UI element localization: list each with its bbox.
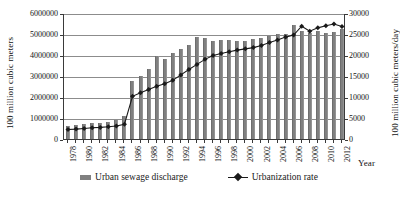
data-point-marker <box>235 48 240 53</box>
x-axis-tickmark <box>341 140 342 143</box>
x-axis-tickmark <box>107 140 108 143</box>
x-axis-tickmark <box>220 140 221 143</box>
y-axis-left-tickmark <box>60 35 63 36</box>
data-point-marker <box>74 127 79 132</box>
y-axis-right-tick-label: 30000 <box>349 10 389 18</box>
x-axis-tickmark <box>115 140 116 143</box>
data-point-marker <box>267 40 272 45</box>
x-axis-tickmark <box>140 140 141 143</box>
x-axis-tick-label: 1990 <box>167 146 175 162</box>
data-point-marker <box>114 123 119 128</box>
x-axis-tick-label: 2004 <box>280 146 288 162</box>
data-point-marker <box>162 81 167 86</box>
x-axis-tickmark <box>91 140 92 143</box>
x-axis-tickmark <box>317 140 318 143</box>
plot-area <box>63 14 345 140</box>
y-axis-left-tickmark <box>60 98 63 99</box>
x-axis-tickmark <box>204 140 205 143</box>
y-axis-right-tickmark <box>345 119 348 120</box>
y-axis-left-tickmark <box>60 77 63 78</box>
y-axis-right-tick-label: 0 <box>349 136 389 144</box>
x-axis-tick-label: 1996 <box>215 146 223 162</box>
chart-legend: Urban sewage discharge Urbanization rate <box>0 172 398 182</box>
data-point-marker <box>90 125 95 130</box>
legend-item-urbanization-rate: Urbanization rate <box>228 172 318 182</box>
y-axis-right-title: 100 million cubic meters/day <box>390 10 400 156</box>
x-axis-tickmark <box>131 140 132 143</box>
data-point-marker <box>251 45 256 50</box>
x-axis-tick-label: 1998 <box>231 146 239 162</box>
y-axis-left-tick-label: 2000000 <box>0 94 58 102</box>
data-point-marker <box>211 53 216 58</box>
legend-item-urban-sewage-discharge: Urban sewage discharge <box>80 172 188 182</box>
y-axis-left-tickmark <box>60 56 63 57</box>
y-axis-right-tick-label: 20000 <box>349 52 389 60</box>
data-point-marker <box>331 22 336 27</box>
x-axis-tick-label: 1986 <box>135 146 143 162</box>
y-axis-right-tick-label: 5000 <box>349 115 389 123</box>
x-axis-tickmark <box>285 140 286 143</box>
y-axis-left-tickmark <box>60 140 63 141</box>
x-axis-tick-label: 1984 <box>119 146 127 162</box>
y-axis-right-tickmark <box>345 56 348 57</box>
x-axis-tick-label: 2012 <box>344 146 352 162</box>
x-axis-tickmark <box>148 140 149 143</box>
data-point-marker <box>146 87 151 92</box>
x-axis-tickmark <box>172 140 173 143</box>
y-axis-left-tick-label: 0 <box>0 136 58 144</box>
x-axis-tickmark <box>164 140 165 143</box>
data-point-marker <box>82 126 87 131</box>
x-axis-tickmark <box>75 140 76 143</box>
y-axis-right-tickmark <box>345 98 348 99</box>
data-point-marker <box>315 25 320 30</box>
x-axis-tickmark <box>325 140 326 143</box>
legend-label: Urbanization rate <box>252 172 318 182</box>
x-axis-tickmark <box>212 140 213 143</box>
y-axis-right-tickmark <box>345 35 348 36</box>
y-axis-left-tickmark <box>60 14 63 15</box>
data-point-marker <box>307 29 312 34</box>
data-point-marker <box>243 46 248 51</box>
x-axis-tick-label: 2002 <box>264 146 272 162</box>
x-axis-tick-label: 2000 <box>247 146 255 162</box>
data-point-marker <box>194 62 199 67</box>
x-axis-tickmark <box>99 140 100 143</box>
y-axis-left-tick-label: 3000000 <box>0 73 58 81</box>
data-point-marker <box>154 84 159 89</box>
x-axis-tickmark <box>260 140 261 143</box>
y-axis-left-tick-label: 5000000 <box>0 31 58 39</box>
x-axis-tickmark <box>123 140 124 143</box>
y-axis-right-tick-label: 15000 <box>349 73 389 81</box>
data-point-marker <box>203 57 208 62</box>
data-point-marker <box>259 43 264 48</box>
x-axis-tickmark <box>83 140 84 143</box>
y-axis-right-tick-label: 10000 <box>349 94 389 102</box>
x-axis-tick-label: 1980 <box>86 146 94 162</box>
data-point-marker <box>323 23 328 28</box>
y-axis-left-tick-label: 1000000 <box>0 115 58 123</box>
x-axis-tickmark <box>301 140 302 143</box>
x-axis-tick-label: 1988 <box>151 146 159 162</box>
x-axis-tickmark <box>252 140 253 143</box>
line-path <box>68 24 342 129</box>
x-axis-tick-label: 1992 <box>183 146 191 162</box>
y-axis-right-tickmark <box>345 77 348 78</box>
x-axis-tick-label: 1982 <box>102 146 110 162</box>
x-axis-tickmark <box>236 140 237 143</box>
bar-swatch-icon <box>80 175 91 180</box>
x-axis-tick-label: 2008 <box>312 146 320 162</box>
y-axis-right-tick-label: 25000 <box>349 31 389 39</box>
data-point-marker <box>219 51 224 56</box>
x-axis-tickmark <box>156 140 157 143</box>
y-axis-left-tick-label: 4000000 <box>0 52 58 60</box>
x-axis-tickmark <box>188 140 189 143</box>
x-axis-tick-label: 1994 <box>199 146 207 162</box>
data-point-marker <box>98 125 103 130</box>
x-axis-tickmark <box>244 140 245 143</box>
x-axis-title: Year <box>358 158 375 168</box>
x-axis-tickmark <box>196 140 197 143</box>
x-axis-tickmark <box>293 140 294 143</box>
x-axis-tickmark <box>309 140 310 143</box>
line-diamond-swatch-icon <box>228 173 248 181</box>
